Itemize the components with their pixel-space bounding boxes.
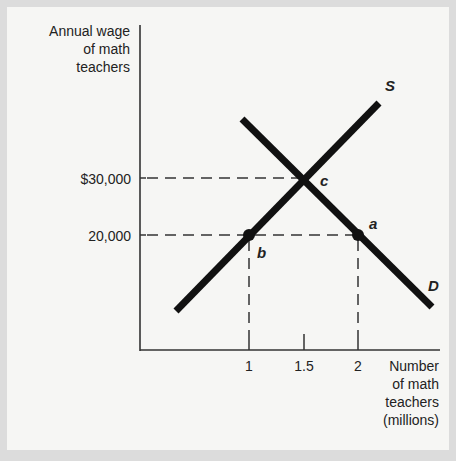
y-axis-label-line-1: Annual wage xyxy=(49,23,130,39)
x-axis-label-line-4: (millions) xyxy=(383,412,439,428)
supply-demand-chart: Annual wage of math teachers $30,000 20,… xyxy=(0,0,456,461)
x-axis-label-line-2: of math xyxy=(392,376,439,392)
supply-label: S xyxy=(385,77,395,94)
y-axis-label-line-3: teachers xyxy=(76,59,130,75)
y-axis-label-line-2: of math xyxy=(83,41,130,57)
demand-label: D xyxy=(428,277,439,294)
point-a-label: a xyxy=(369,215,377,232)
point-a xyxy=(352,229,364,241)
x-tick-2: 2 xyxy=(354,358,362,374)
point-b xyxy=(243,229,255,241)
supply-curve xyxy=(176,103,379,311)
x-axis-label-line-1: Number xyxy=(389,358,439,374)
point-c-label: c xyxy=(320,172,329,189)
point-b-label: b xyxy=(257,244,266,261)
y-tick-20000: 20,000 xyxy=(88,228,131,244)
x-tick-1-5: 1.5 xyxy=(294,358,314,374)
x-tick-1: 1 xyxy=(245,358,253,374)
x-axis-label-line-3: teachers xyxy=(385,394,439,410)
y-tick-30000: $30,000 xyxy=(80,171,131,187)
